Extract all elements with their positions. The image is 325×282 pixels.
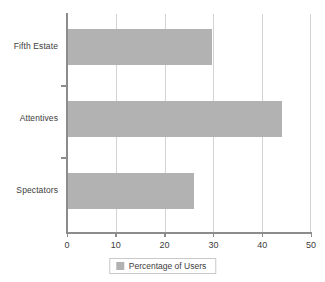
y-axis-label-fifth-estate: Fifth Estate bbox=[14, 41, 58, 51]
x-axis-tick-50 bbox=[311, 232, 313, 237]
y-axis-line bbox=[66, 13, 68, 233]
x-axis-tick-label-30: 30 bbox=[208, 240, 218, 251]
x-axis-tick-label-10: 10 bbox=[111, 240, 121, 251]
x-axis-tick-label-40: 40 bbox=[257, 240, 267, 251]
plot-area bbox=[67, 14, 311, 232]
legend-swatch-percentage-of-users bbox=[116, 262, 124, 270]
y-axis-tick-2 bbox=[61, 157, 67, 159]
bar-spectators bbox=[67, 173, 194, 209]
x-axis-tick-label-0: 0 bbox=[64, 240, 69, 251]
bar-attentives bbox=[67, 101, 282, 137]
legend-label-percentage-of-users: Percentage of Users bbox=[129, 261, 206, 271]
y-axis-label-attentives: Attentives bbox=[20, 113, 58, 123]
x-axis-line bbox=[66, 232, 312, 234]
y-axis-label-spectators: Spectators bbox=[16, 185, 58, 195]
x-axis-tick-0 bbox=[67, 232, 69, 237]
gridline-50 bbox=[310, 14, 311, 232]
x-axis-tick-20 bbox=[164, 232, 166, 237]
chart-legend: Percentage of Users bbox=[109, 258, 216, 274]
x-axis-tick-label-50: 50 bbox=[306, 240, 316, 251]
x-axis-tick-40 bbox=[262, 232, 264, 237]
x-axis-tick-10 bbox=[115, 232, 117, 237]
x-axis-tick-30 bbox=[213, 232, 215, 237]
x-axis-tick-label-20: 20 bbox=[160, 240, 170, 251]
bar-chart: Fifth Estate Attentives Spectators 0 10 … bbox=[0, 0, 325, 282]
y-axis-category-labels: Fifth Estate Attentives Spectators bbox=[0, 14, 63, 232]
bar-fifth-estate bbox=[67, 29, 212, 65]
y-axis-tick-1 bbox=[61, 85, 67, 87]
